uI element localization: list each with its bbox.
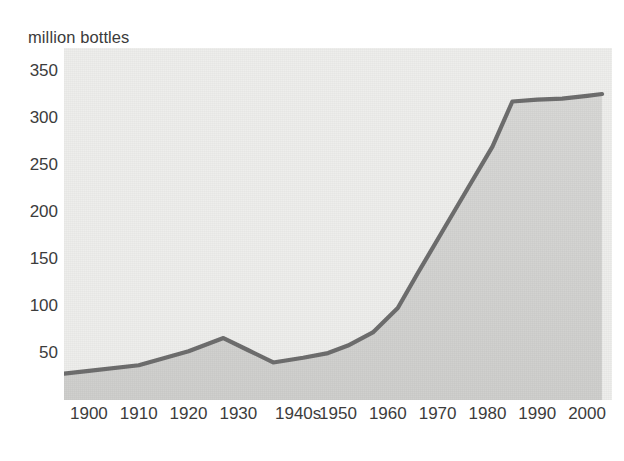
x-tick-label: 1980 bbox=[469, 405, 507, 422]
x-tick-label: 1950 bbox=[319, 405, 357, 422]
y-tick-label: 250 bbox=[2, 156, 58, 173]
x-tick-label: 1990 bbox=[518, 405, 556, 422]
x-axis-tick-labels: 19001910192019301940s1950196019701980199… bbox=[0, 405, 624, 431]
y-axis-tick-labels: 35030025020015010050 bbox=[0, 0, 58, 461]
y-tick-label: 100 bbox=[2, 297, 58, 314]
x-tick-label: 1900 bbox=[70, 405, 108, 422]
y-tick-label: 350 bbox=[2, 62, 58, 79]
y-tick-label: 150 bbox=[2, 250, 58, 267]
y-tick-label: 50 bbox=[2, 344, 58, 361]
x-tick-label: 1920 bbox=[170, 405, 208, 422]
x-tick-label: 1930 bbox=[219, 405, 257, 422]
x-tick-label: 1910 bbox=[120, 405, 158, 422]
chart-root: million bottles 35030025020015010050 190… bbox=[0, 0, 624, 461]
x-tick-label: 2000 bbox=[568, 405, 606, 422]
area-chart-svg bbox=[64, 48, 612, 400]
x-tick-label: 1960 bbox=[369, 405, 407, 422]
x-tick-label: 1970 bbox=[419, 405, 457, 422]
y-tick-label: 300 bbox=[2, 109, 58, 126]
x-tick-label: 1940s bbox=[275, 405, 321, 422]
y-tick-label: 200 bbox=[2, 203, 58, 220]
plot-area bbox=[64, 48, 612, 400]
